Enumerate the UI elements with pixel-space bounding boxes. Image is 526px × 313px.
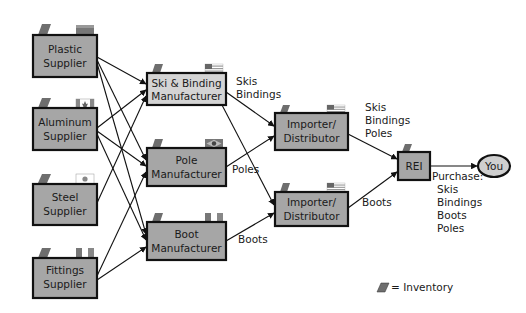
- italy-flag: [205, 213, 223, 222]
- node-label-line1: Importer/: [287, 118, 337, 130]
- edge-label-boots: Boots: [362, 196, 392, 208]
- node-label-line2: Supplier: [43, 278, 87, 290]
- edge-plastic-boot: [97, 63, 146, 234]
- node-label-line2: Supplier: [43, 205, 87, 217]
- node-label-line2: Manufacturer: [151, 168, 222, 180]
- inventory-icon: [38, 24, 51, 35]
- node-label-line2: Supplier: [43, 57, 87, 69]
- usa-flag: [327, 105, 345, 113]
- edge-label-bindings: Bindings: [365, 114, 410, 126]
- node-label-line1: Fittings: [46, 264, 84, 276]
- japan-flag: [76, 174, 94, 184]
- usa-flag: [327, 183, 345, 191]
- inventory-icon: [402, 144, 412, 152]
- node-label: REI: [405, 160, 422, 172]
- purchase-item: Skis: [437, 183, 458, 195]
- node-label-line1: Plastic: [48, 43, 82, 55]
- inventory-icon: [152, 64, 163, 73]
- purchase-item: Boots: [437, 209, 467, 221]
- node-boot-manufacturer: Boot Manufacturer: [147, 213, 226, 260]
- edge-label-poles: Poles: [232, 163, 259, 175]
- node-importer-distributor-2: Importer/ Distributor: [275, 183, 348, 226]
- supply-chain-diagram: Plastic Supplier Aluminum Supplier Steel…: [0, 0, 526, 313]
- node-label-line1: Importer/: [287, 196, 337, 208]
- inventory-icon: [38, 174, 51, 183]
- node-label-line1: Pole: [176, 154, 198, 166]
- node-rei: REI: [398, 144, 430, 180]
- purchase-item: Poles: [437, 222, 464, 234]
- inventory-icon: [280, 105, 290, 113]
- legend-label: = Inventory: [391, 281, 453, 293]
- node-steel-supplier: Steel Supplier: [33, 174, 97, 225]
- node-plastic-supplier: Plastic Supplier: [33, 24, 97, 77]
- inventory-icon: [38, 248, 51, 258]
- node-aluminum-supplier: Aluminum Supplier: [33, 98, 97, 150]
- brazil-flag: [205, 139, 223, 148]
- node-label-line1: Steel: [52, 191, 79, 203]
- edge-label-bindings: Bindings: [236, 88, 281, 100]
- edge-label-poles: Poles: [365, 127, 392, 139]
- node-importer-distributor-1: Importer/ Distributor: [275, 105, 348, 150]
- inventory-icon: [152, 213, 163, 222]
- inventory-icon: [152, 139, 163, 148]
- node-pole-manufacturer: Pole Manufacturer: [147, 139, 226, 186]
- purchase-item: Bindings: [437, 196, 482, 208]
- edge-label-skis: Skis: [365, 101, 386, 113]
- unknown-flag: [76, 25, 94, 35]
- edge-plastic-ski: [97, 57, 146, 84]
- node-label-line2: Distributor: [283, 132, 340, 144]
- node-fittings-supplier: Fittings Supplier: [33, 248, 97, 298]
- node-label-line2: Distributor: [283, 210, 340, 222]
- node-ski-binding-manufacturer: Ski & Binding Manufacturer: [147, 64, 226, 105]
- inventory-icon: [38, 98, 51, 108]
- inventory-icon: [377, 283, 389, 292]
- edge-label-boots: Boots: [238, 233, 268, 245]
- edge-label-skis: Skis: [236, 75, 257, 87]
- node-label-line1: Aluminum: [38, 116, 91, 128]
- usa-flag: [205, 64, 223, 73]
- node-label-line2: Manufacturer: [151, 242, 222, 254]
- node-label-line2: Manufacturer: [151, 90, 222, 102]
- italy-flag: [76, 248, 94, 258]
- node-label-line2: Supplier: [43, 130, 87, 142]
- edge-plastic-pole: [97, 60, 146, 160]
- inventory-icon: [280, 183, 290, 192]
- edge-fittings-boot: [97, 247, 146, 280]
- purchase-title: Purchase:: [432, 170, 483, 182]
- node-label: You: [484, 160, 503, 172]
- node-label-line1: Boot: [174, 228, 198, 240]
- legend: = Inventory: [377, 281, 453, 293]
- node-label-line1: Ski & Binding: [151, 77, 221, 89]
- edge-labels: Skis Bindings Poles Boots Skis Bindings …: [232, 75, 483, 245]
